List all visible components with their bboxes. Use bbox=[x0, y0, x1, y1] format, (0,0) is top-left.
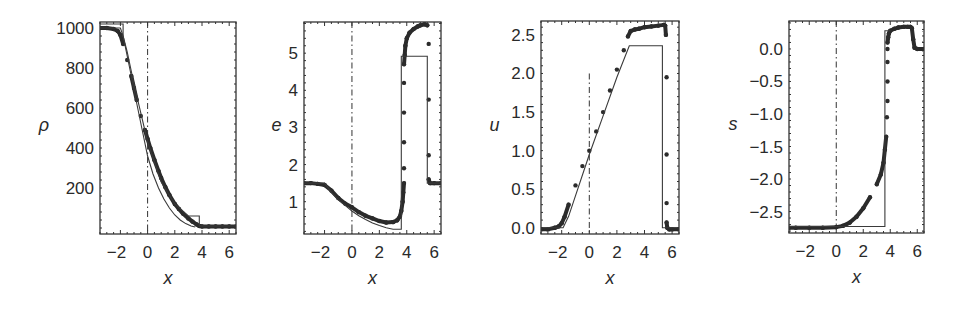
panel-entropy: −202460.0−0.5−1.0−1.5−2.0−2.5xs bbox=[729, 21, 927, 287]
y-tick-label: 1000 bbox=[56, 19, 94, 38]
x-tick-label: 0 bbox=[143, 243, 152, 262]
x-axis-label: x bbox=[163, 268, 174, 288]
y-axis-label: e bbox=[271, 115, 281, 135]
y-axis-label: u bbox=[489, 115, 499, 135]
y-tick-label: −2.5 bbox=[749, 203, 783, 222]
y-tick-label: 200 bbox=[66, 179, 94, 198]
panel-energy: −2024612345xe bbox=[271, 22, 443, 288]
y-tick-label: 1 bbox=[289, 193, 298, 212]
figure-four-panels: −202462004006008001000xρ −2024612345xe −… bbox=[0, 0, 960, 309]
series-exact bbox=[541, 46, 679, 228]
series-numerical bbox=[302, 22, 443, 225]
x-tick-label: 2 bbox=[612, 243, 621, 262]
x-axis-label: x bbox=[851, 267, 862, 287]
series-exact-smooth bbox=[100, 28, 195, 227]
y-tick-label: 2.0 bbox=[511, 64, 535, 83]
y-tick-label: 3 bbox=[289, 118, 298, 137]
plot-frame bbox=[789, 21, 924, 233]
x-tick-label: −2 bbox=[548, 243, 567, 262]
y-tick-label: 1.0 bbox=[511, 142, 535, 161]
x-axis-label: x bbox=[367, 268, 378, 288]
series-numerical bbox=[787, 25, 926, 230]
x-tick-label: 0 bbox=[832, 242, 841, 261]
x-tick-label: 2 bbox=[375, 243, 384, 262]
panel-velocity: −202460.00.51.01.52.02.5xu bbox=[489, 21, 681, 288]
y-axis-label: ρ bbox=[38, 115, 49, 135]
x-tick-label: 6 bbox=[429, 243, 438, 262]
panel-density: −202462004006008001000xρ bbox=[38, 19, 238, 288]
x-tick-label: 6 bbox=[913, 242, 922, 261]
y-tick-label: 0.0 bbox=[511, 219, 535, 238]
x-tick-label: −2 bbox=[311, 243, 330, 262]
y-tick-label: 0.5 bbox=[511, 180, 535, 199]
y-tick-label: 2.5 bbox=[511, 26, 535, 45]
y-tick-label: 4 bbox=[289, 81, 298, 100]
y-tick-label: 2 bbox=[289, 156, 298, 175]
x-tick-label: 2 bbox=[170, 243, 179, 262]
x-tick-label: −2 bbox=[796, 242, 815, 261]
y-tick-label: −2.0 bbox=[749, 170, 783, 189]
y-tick-label: −0.5 bbox=[749, 72, 783, 91]
y-axis-label: s bbox=[729, 114, 738, 134]
y-tick-label: 0.0 bbox=[759, 40, 783, 59]
x-tick-label: 2 bbox=[859, 242, 868, 261]
x-tick-label: 4 bbox=[402, 243, 411, 262]
y-tick-label: −1.0 bbox=[749, 105, 783, 124]
x-tick-label: −2 bbox=[107, 243, 126, 262]
series-exact bbox=[304, 56, 441, 229]
x-tick-label: 4 bbox=[197, 243, 206, 262]
plot-frame bbox=[541, 21, 679, 234]
x-tick-label: 6 bbox=[224, 243, 233, 262]
x-tick-label: 0 bbox=[347, 243, 356, 262]
plot-frame bbox=[100, 22, 236, 234]
y-tick-label: −1.5 bbox=[749, 138, 783, 157]
series-numerical bbox=[539, 23, 681, 232]
y-tick-label: 400 bbox=[66, 139, 94, 158]
x-tick-label: 4 bbox=[886, 242, 895, 261]
series-exact bbox=[789, 31, 890, 227]
x-axis-label: x bbox=[605, 268, 616, 288]
series-numerical bbox=[98, 26, 238, 229]
y-tick-label: 1.5 bbox=[511, 103, 535, 122]
plot-frame bbox=[304, 22, 441, 234]
x-tick-label: 0 bbox=[585, 243, 594, 262]
x-tick-label: 4 bbox=[640, 243, 649, 262]
x-tick-label: 6 bbox=[667, 243, 676, 262]
y-tick-label: 600 bbox=[66, 99, 94, 118]
y-tick-label: 800 bbox=[66, 59, 94, 78]
y-tick-label: 5 bbox=[289, 44, 298, 63]
